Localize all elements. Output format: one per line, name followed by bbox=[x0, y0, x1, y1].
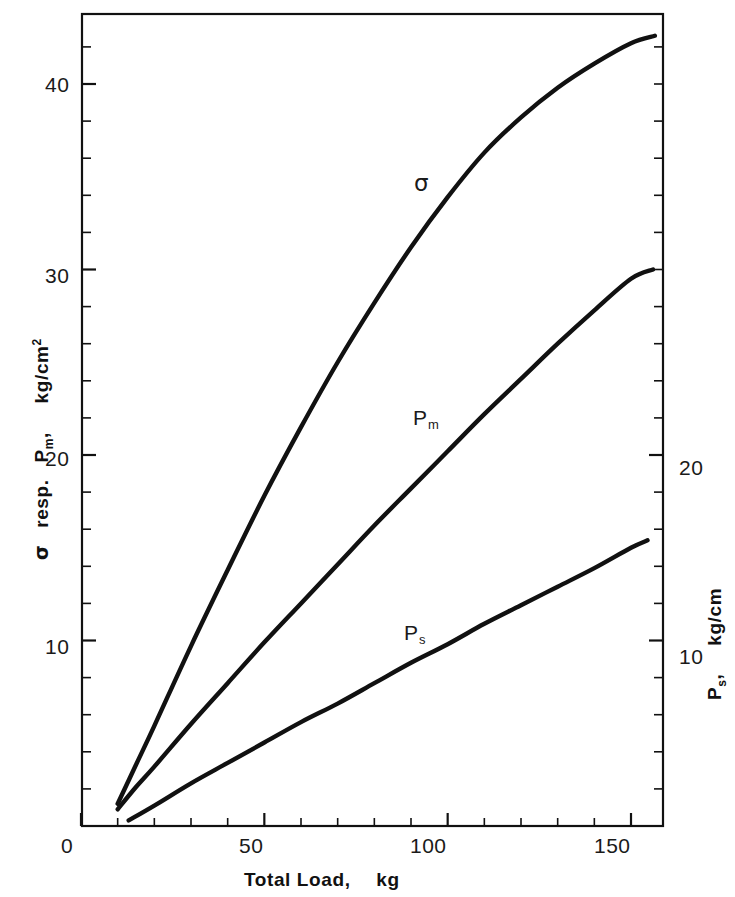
plot-canvas bbox=[0, 0, 735, 897]
x-tick-label-50: 50 bbox=[239, 834, 263, 858]
y-left-axis-title-unit: kg/cm bbox=[31, 345, 52, 403]
curve-label-p-m-sub: m bbox=[428, 417, 439, 432]
y-right-axis-title-series: P bbox=[704, 687, 725, 700]
y-left-axis-title-symbol: σ bbox=[30, 545, 52, 560]
y-left-axis-title-text: resp. bbox=[31, 479, 52, 527]
y-right-axis-title-series-sub: s bbox=[715, 679, 729, 686]
y-right-axis-title-comma: , bbox=[704, 674, 725, 680]
curve-label-p-s-sub: s bbox=[419, 632, 426, 647]
figure-container: 0 50 100 150 Total Load, kg 10 20 30 40 … bbox=[0, 0, 735, 897]
curve-p-s bbox=[129, 540, 648, 820]
y-left-axis-title-unit-sup: 2 bbox=[30, 338, 44, 345]
y-left-axis-title-comma: , bbox=[31, 432, 52, 438]
x-tick-label-150: 150 bbox=[594, 834, 631, 858]
y-right-tick-label-10: 10 bbox=[679, 645, 703, 669]
x-axis-title-unit: kg bbox=[376, 869, 399, 890]
y-left-axis-title-series: P bbox=[31, 449, 52, 462]
curve-label-p-m-base: P bbox=[413, 406, 427, 429]
data-curves bbox=[118, 36, 655, 821]
y-left-axis-ticks bbox=[82, 47, 96, 789]
curve-label-p-s: Ps bbox=[404, 621, 425, 645]
y-right-axis-title: Ps, kg/cm bbox=[704, 588, 729, 700]
y-left-axis-title-series-sub: m bbox=[42, 438, 56, 449]
y-left-tick-label-40: 40 bbox=[45, 73, 69, 97]
y-left-axis-title: σ resp. Pm, kg/cm2 bbox=[30, 338, 56, 560]
curve-label-p-s-base: P bbox=[404, 621, 418, 644]
curve-label-sigma: σ bbox=[414, 170, 429, 196]
y-right-tick-label-20: 20 bbox=[679, 456, 703, 480]
x-axis-ticks bbox=[81, 813, 631, 826]
y-right-axis-ticks bbox=[649, 47, 663, 789]
curve-label-p-m: Pm bbox=[413, 406, 438, 430]
y-right-axis-title-unit: kg/cm bbox=[704, 588, 725, 646]
x-tick-label-100: 100 bbox=[410, 834, 447, 858]
y-left-tick-label-30: 30 bbox=[45, 264, 69, 288]
y-left-tick-label-10: 10 bbox=[45, 635, 69, 659]
curve-p-m bbox=[118, 270, 653, 810]
curve-sigma bbox=[118, 36, 655, 804]
plot-frame bbox=[82, 14, 663, 826]
x-axis-title: Total Load, kg bbox=[244, 869, 400, 891]
x-tick-label-0: 0 bbox=[61, 834, 73, 858]
x-axis-title-main: Total Load, bbox=[244, 869, 351, 890]
